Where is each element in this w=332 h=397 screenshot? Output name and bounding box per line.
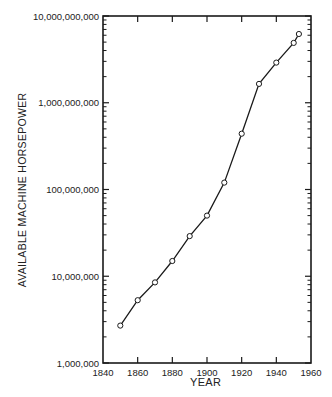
x-axis-ticks: 1840186018801900192019401960	[92, 16, 321, 378]
y-axis-label-container: AVAILABLE MACHINE HORSEPOWER	[10, 70, 34, 310]
y-tick-label: 1,000,000	[57, 358, 99, 369]
x-tick-label: 1880	[162, 367, 183, 378]
data-point-marker	[296, 31, 301, 36]
data-point-marker	[291, 40, 296, 45]
y-tick-label: 10,000,000,000	[33, 11, 99, 22]
y-axis-label: AVAILABLE MACHINE HORSEPOWER	[16, 93, 28, 288]
chart-area: 1840186018801900192019401960 1,000,00010…	[0, 0, 332, 397]
data-point-marker	[274, 60, 279, 65]
data-markers	[118, 31, 302, 328]
y-minor-ticks	[103, 20, 311, 337]
data-point-marker	[222, 180, 227, 185]
x-tick-label: 1860	[127, 367, 148, 378]
data-point-marker	[187, 234, 192, 239]
x-tick-label: 1940	[266, 367, 287, 378]
data-point-marker	[256, 81, 261, 86]
y-tick-label: 10,000,000	[51, 271, 99, 282]
data-line	[120, 34, 299, 326]
x-tick-label: 1960	[300, 367, 321, 378]
x-tick-label: 1840	[92, 367, 113, 378]
data-point-marker	[170, 258, 175, 263]
y-axis-ticks: 1,000,00010,000,000100,000,0001,000,000,…	[33, 11, 311, 369]
y-tick-label: 1,000,000,000	[38, 97, 99, 108]
x-tick-label: 1920	[231, 367, 252, 378]
data-point-marker	[239, 131, 244, 136]
x-axis-label: YEAR	[190, 376, 221, 388]
data-point-marker	[118, 323, 123, 328]
data-point-marker	[152, 280, 157, 285]
data-point-marker	[135, 298, 140, 303]
y-tick-label: 100,000,000	[46, 184, 99, 195]
data-point-marker	[204, 213, 209, 218]
plot-frame	[103, 16, 311, 363]
